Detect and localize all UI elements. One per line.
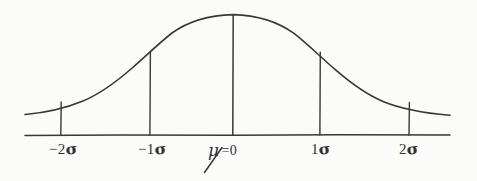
ordinate-line-neg1sigma <box>150 52 151 135</box>
axis-label-neg2sigma: −2σ <box>49 142 77 157</box>
axis-label-pos1sigma: 1σ <box>311 142 330 157</box>
mu-glyph: μ <box>208 142 219 159</box>
x-axis-baseline <box>25 135 450 136</box>
axis-label-mu: μ=0 <box>208 141 237 158</box>
axis-label-neg1sigma: −1σ <box>138 142 166 157</box>
sigma-glyph-pos1sigma: σ <box>318 142 331 158</box>
normal-distribution-figure: −2σ −1σ μ=0 1σ 2σ <box>0 0 477 181</box>
axis-label-neg1sigma-prefix: −1 <box>138 141 155 157</box>
sigma-glyph-pos2sigma: σ <box>406 142 419 158</box>
axis-label-pos2sigma: 2σ <box>399 142 418 157</box>
mu-equals-zero-text: =0 <box>221 143 237 158</box>
axis-label-neg2sigma-prefix: −2 <box>49 141 66 157</box>
sigma-glyph-neg2sigma: σ <box>65 142 78 158</box>
sigma-glyph-neg1sigma: σ <box>154 142 167 158</box>
